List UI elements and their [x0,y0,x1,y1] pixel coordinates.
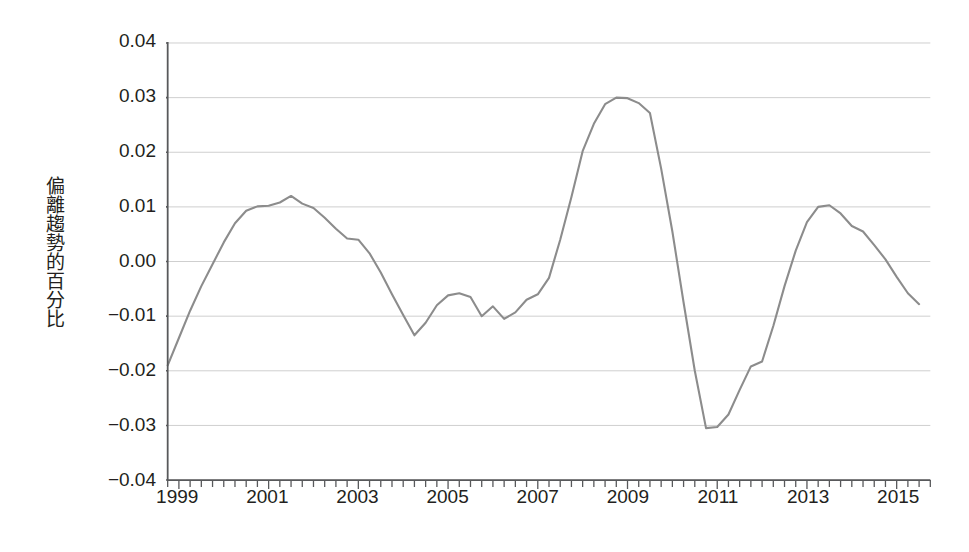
y-axis-tick-label: −0.04 [96,469,156,491]
y-axis-tick-label: 0.02 [96,140,156,162]
y-axis-tick-label: 0.00 [96,250,156,272]
y-axis-tick-label: 0.04 [96,30,156,52]
data-series-line [168,98,919,429]
x-axis-minor-ticks [168,480,931,489]
plot-area [166,41,932,480]
y-axis-tick-label: 0.01 [96,195,156,217]
y-axis-title: 偏離趨勢的百分比 [30,176,64,328]
chart-figure: 偏離趨勢的百分比 0.040.030.020.010.00−0.01−0.02−… [0,0,969,552]
gridlines [168,43,931,480]
chart-svg [166,41,932,494]
y-axis-tick-label: −0.03 [96,414,156,436]
y-axis-tick-label: −0.01 [96,304,156,326]
y-axis-tick-label: −0.02 [96,359,156,381]
y-axis-tick-label: 0.03 [96,85,156,107]
